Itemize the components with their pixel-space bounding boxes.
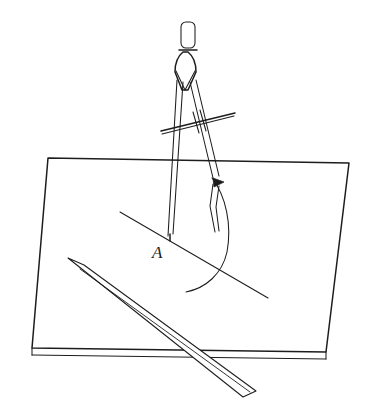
point-label-a: A [151, 243, 163, 262]
drawing-board-face [32, 158, 349, 352]
figure-root: A [0, 0, 377, 406]
line-drawing-illustration: A [0, 0, 377, 406]
compass-hinge [175, 52, 196, 90]
handle-face [181, 22, 195, 48]
knurled-handle [179, 22, 197, 50]
drawing-board [32, 158, 349, 359]
drawing-board-bottom-edge-inner [32, 355, 326, 359]
